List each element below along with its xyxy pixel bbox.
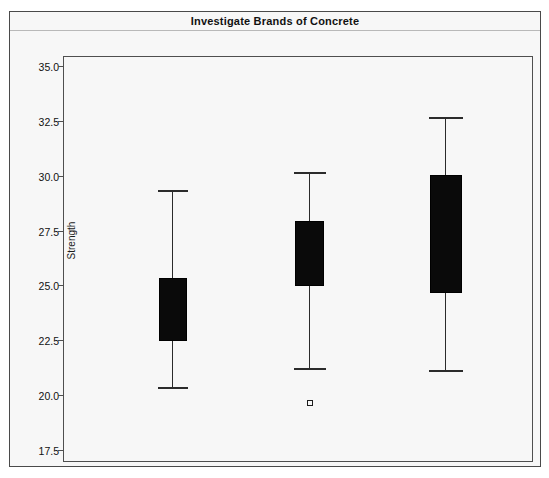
- upper-whisker-cap: [429, 117, 463, 119]
- plot-area: Strength 35.032.530.027.525.022.520.017.…: [63, 56, 533, 462]
- page-title: Investigate Brands of Concrete: [191, 15, 360, 27]
- box-plot-brand-3[interactable]: [445, 57, 446, 461]
- lower-whisker-line: [172, 341, 173, 387]
- y-axis-tick: 22.5: [18, 334, 64, 348]
- y-axis-tick-label: 25.0: [39, 280, 64, 292]
- upper-whisker-cap: [294, 172, 326, 174]
- y-axis-tick-mark: [58, 285, 64, 286]
- y-axis-tick-mark: [58, 66, 64, 67]
- y-axis-tick-label: 22.5: [39, 335, 64, 347]
- y-axis-tick-mark: [58, 395, 64, 396]
- y-axis-tick: 32.5: [18, 115, 64, 129]
- y-axis-tick: 30.0: [18, 170, 64, 184]
- y-axis-tick: 25.0: [18, 279, 64, 293]
- title-bar: Investigate Brands of Concrete: [10, 12, 540, 31]
- box-iqr-rect[interactable]: [159, 278, 187, 342]
- y-axis-tick-label: 32.5: [39, 116, 64, 128]
- y-axis-tick: 17.5: [18, 444, 64, 458]
- box-iqr-rect[interactable]: [430, 175, 462, 293]
- y-axis-tick-label: 27.5: [39, 226, 64, 238]
- y-axis-tick-mark: [58, 176, 64, 177]
- upper-whisker-line: [309, 172, 310, 220]
- box-plot-brand-2[interactable]: [309, 57, 310, 461]
- lower-whisker-cap: [158, 387, 188, 389]
- lower-whisker-cap: [429, 370, 463, 372]
- y-axis-label: Strength: [66, 196, 77, 286]
- y-axis-tick-mark: [58, 340, 64, 341]
- y-axis-tick-mark: [58, 231, 64, 232]
- y-axis-tick-mark: [58, 450, 64, 451]
- y-axis-tick: 35.0: [18, 60, 64, 74]
- box-plot-brand-1[interactable]: [172, 57, 173, 461]
- y-axis-tick-label: 17.5: [39, 445, 64, 457]
- y-axis-tick: 20.0: [18, 389, 64, 403]
- y-axis-tick-label: 30.0: [39, 171, 64, 183]
- upper-whisker-cap: [158, 190, 188, 192]
- box-iqr-rect[interactable]: [295, 221, 324, 287]
- lower-whisker-line: [309, 286, 310, 367]
- lower-whisker-line: [445, 293, 446, 370]
- y-axis-tick-label: 20.0: [39, 390, 64, 402]
- y-axis-tick: 27.5: [18, 225, 64, 239]
- chart-window: Investigate Brands of Concrete Strength …: [9, 11, 541, 467]
- lower-whisker-cap: [294, 368, 326, 370]
- upper-whisker-line: [445, 117, 446, 174]
- outlier-marker[interactable]: [307, 400, 313, 406]
- y-axis-tick-label: 35.0: [39, 61, 64, 73]
- upper-whisker-line: [172, 190, 173, 278]
- y-axis-tick-mark: [58, 121, 64, 122]
